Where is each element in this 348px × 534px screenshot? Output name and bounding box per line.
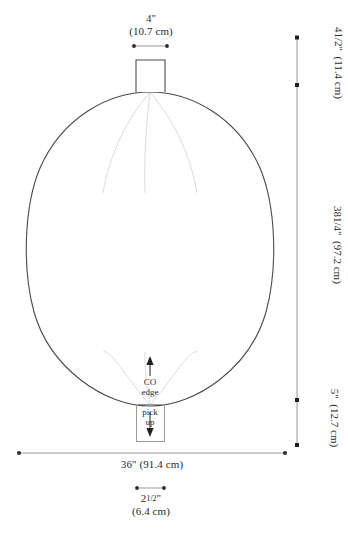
dim-right-tick-3 <box>295 398 299 402</box>
label-bottom-tab-width-imperial: 21/2" <box>110 492 192 505</box>
label-body-height-frac: 1/4 <box>332 217 344 231</box>
annotation-co-edge-line2: edge <box>128 388 172 398</box>
top-tab-outline <box>136 60 165 92</box>
annotation-pick-up: pick up <box>128 408 172 427</box>
label-bottom-tab-height: 5" (12.7 cm) <box>313 385 341 451</box>
co-edge-arrow <box>146 356 153 376</box>
dim-right-tick-1 <box>295 36 299 40</box>
label-top-tab-width: 4" (10.7 cm) <box>106 12 196 38</box>
label-bottom-tab-width-metric: (6.4 cm) <box>110 505 192 518</box>
guide-curve-top-center <box>145 92 150 193</box>
dim-tab-width-tick-right <box>162 486 166 490</box>
dim-top-width-tick-right <box>165 44 169 48</box>
dim-bottom-width-tick-left <box>17 451 21 455</box>
schematic-drawing <box>0 0 348 534</box>
label-body-width-combined: 36" (91.4 cm) <box>76 458 228 471</box>
dim-bottom-width <box>17 451 287 455</box>
guide-curves-top <box>103 92 197 193</box>
label-top-tab-height-frac: 1/2 <box>333 33 345 47</box>
guide-curve-top-left <box>103 92 150 193</box>
dim-top-width-tick-left <box>132 44 136 48</box>
dim-tab-width <box>135 486 166 490</box>
annotation-co-edge: CO edge <box>128 378 172 397</box>
label-body-width: 36" (91.4 cm) <box>76 458 228 471</box>
annotation-pick-up-line2: up <box>128 418 172 428</box>
dim-top-width <box>132 44 169 48</box>
dim-bottom-width-tick-right <box>283 451 287 455</box>
dim-right-vertical <box>295 36 299 448</box>
guide-curve-top-right <box>150 92 197 193</box>
label-top-tab-height-unit: " <box>333 47 345 52</box>
pick-up-arrow-head <box>146 428 153 437</box>
schematic-canvas: 4" (10.7 cm) 41/2" (11.4 cm) 381/4" (97.… <box>0 0 348 534</box>
label-body-height-metric: (97.2 cm) <box>332 241 344 284</box>
label-bottom-tab-width-frac: 1/2 <box>146 494 156 503</box>
co-edge-arrow-head <box>146 356 153 365</box>
label-top-tab-width-imperial: 4" <box>106 12 196 25</box>
label-bottom-tab-height-metric: (12.7 cm) <box>329 404 341 447</box>
label-top-tab-height-metric: (11.4 cm) <box>333 57 345 99</box>
label-bottom-tab-height-imperial: 5" <box>329 389 341 399</box>
label-body-height: 381/4" (97.2 cm) <box>316 206 344 278</box>
dim-right-tick-4 <box>295 443 299 447</box>
dim-right-tick-2 <box>295 83 299 87</box>
label-top-tab-height: 41/2" (11.4 cm) <box>317 27 345 97</box>
label-body-height-whole: 38 <box>332 206 344 217</box>
label-bottom-tab-width-unit: " <box>157 492 162 504</box>
label-body-height-unit: " <box>332 231 344 236</box>
dim-tab-width-tick-left <box>135 486 139 490</box>
label-bottom-tab-width: 21/2" (6.4 cm) <box>110 492 192 518</box>
label-top-tab-width-metric: (10.7 cm) <box>106 25 196 38</box>
